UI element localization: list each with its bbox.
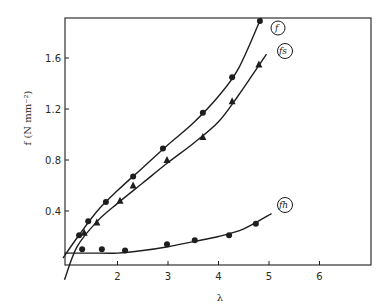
y-tick-label: 0.8 (45, 155, 61, 166)
triangle-marker-fs (163, 156, 170, 163)
circle-marker-fh (253, 221, 259, 227)
circle-marker-fh (99, 246, 105, 252)
circle-marker-f (160, 146, 166, 152)
circle-marker-fh (226, 232, 232, 238)
svg-text:fh: fh (278, 200, 288, 210)
circle-marker-f (103, 199, 109, 205)
data-markers (76, 18, 263, 254)
plot-frame (65, 18, 371, 265)
triangle-marker-fs (117, 197, 124, 204)
x-axis-ticks: 23456 (114, 261, 322, 282)
x-tick-label: 4 (215, 271, 221, 282)
curve-label-fh: fh (278, 198, 293, 213)
x-tick-label: 5 (266, 271, 272, 282)
circle-marker-fh (192, 237, 198, 243)
y-tick-label: 0.4 (45, 206, 61, 217)
triangle-marker-fs (130, 182, 137, 189)
y-axis-label: f (N mm⁻²) (22, 90, 33, 145)
circle-marker-f (85, 218, 91, 224)
circle-marker-f (200, 110, 206, 116)
y-tick-label: 1.6 (45, 53, 61, 64)
circle-marker-f (257, 18, 263, 24)
curve-labels: f fs fh (271, 21, 293, 213)
circle-marker-f (130, 174, 136, 180)
y-tick-label: 1.2 (45, 104, 61, 115)
circle-marker-fh (164, 241, 170, 247)
circle-marker-fh (79, 246, 85, 252)
svg-text:f: f (274, 23, 280, 33)
x-tick-label: 2 (114, 271, 120, 282)
x-tick-label: 3 (165, 271, 171, 282)
fit-curve-f (63, 17, 261, 258)
circle-marker-f (229, 74, 235, 80)
x-axis-label: λ (217, 292, 224, 303)
curve-label-f: f (271, 21, 285, 35)
plot-border (65, 18, 371, 265)
fit-curves (63, 17, 272, 280)
chart-canvas: 23456 0.40.81.21.6 f fs fh λ f (N mm⁻²) (0, 0, 388, 307)
fit-curve-fh (64, 214, 271, 254)
svg-text:fs: fs (278, 46, 287, 56)
circle-marker-fh (122, 248, 128, 254)
curve-label-fs: fs (278, 44, 293, 59)
x-tick-label: 6 (316, 271, 322, 282)
